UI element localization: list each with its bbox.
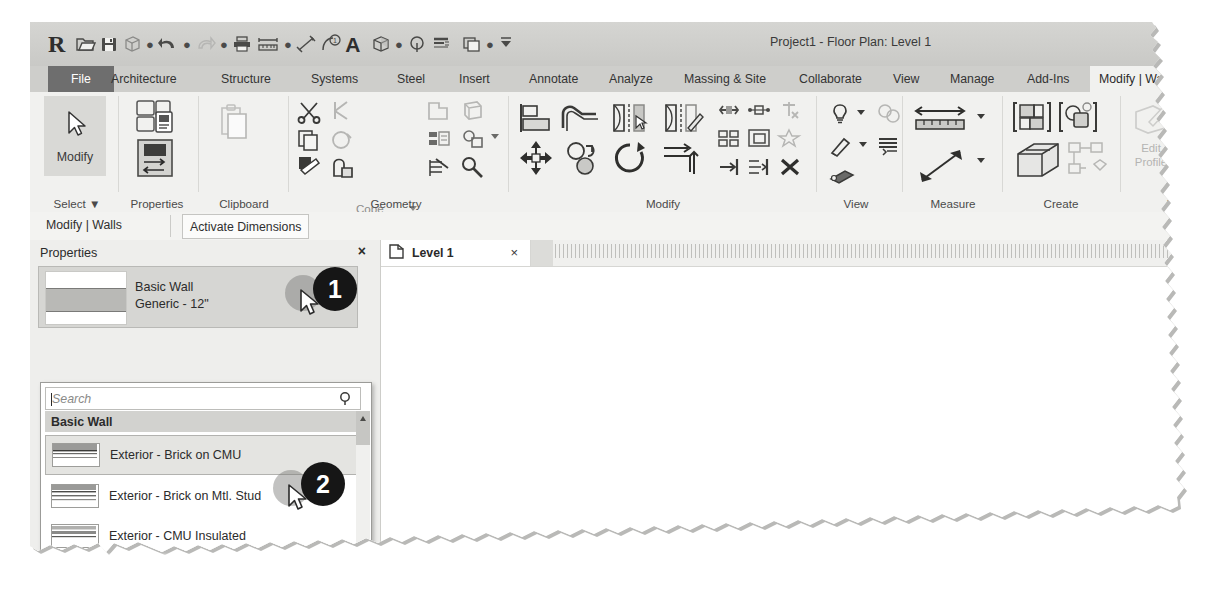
- tab-modify-walls[interactable]: Modify | Walls: [1090, 66, 1184, 92]
- view-tab-stub[interactable]: [531, 240, 553, 266]
- undo-icon[interactable]: [157, 34, 179, 54]
- save-icon[interactable]: [99, 34, 119, 54]
- switch-window-icon[interactable]: [461, 34, 483, 54]
- type-properties-icon[interactable]: [134, 138, 180, 178]
- measure-icon[interactable]: [256, 34, 280, 54]
- print-icon[interactable]: [231, 34, 253, 54]
- reveal-dropdown-arrow-icon[interactable]: [856, 108, 866, 116]
- unpin-icon[interactable]: [776, 100, 802, 120]
- tab-insert[interactable]: Insert: [450, 66, 499, 92]
- quick-access-toolbar[interactable]: R: [48, 28, 514, 60]
- reset-profile-button[interactable]: Reset Profile: [1176, 102, 1190, 168]
- tab-annotate[interactable]: Annotate: [520, 66, 587, 92]
- cut-profile-icon[interactable]: [876, 102, 902, 126]
- restore-icon[interactable]: [776, 128, 802, 148]
- offset-icon[interactable]: [560, 102, 602, 134]
- override-graphics-icon[interactable]: [876, 134, 902, 158]
- create-assembly-icon[interactable]: [1066, 140, 1112, 180]
- properties-close-icon[interactable]: ×: [358, 243, 366, 259]
- paste-icon[interactable]: [212, 102, 256, 144]
- reveal-hidden-icon[interactable]: [828, 102, 852, 126]
- type-dropdown-scrollbar[interactable]: [356, 411, 370, 552]
- linework-icon[interactable]: [828, 134, 854, 158]
- cope-icon[interactable]: [330, 100, 354, 122]
- edit-profile-button[interactable]: Edit Profile: [1126, 102, 1176, 168]
- scroll-up-arrow-icon[interactable]: [360, 416, 366, 421]
- scale-icon[interactable]: [746, 128, 772, 148]
- copy-modify-icon[interactable]: [564, 140, 602, 176]
- trim-extend-icon[interactable]: [660, 140, 700, 176]
- dropdown-dot-icon[interactable]: ●: [395, 38, 404, 51]
- linework-dropdown-arrow-icon[interactable]: [858, 140, 868, 148]
- hide-element-icon[interactable]: [828, 166, 856, 188]
- copy-icon[interactable]: [296, 128, 322, 152]
- screenshot-root: R: [0, 0, 1215, 600]
- section-icon[interactable]: [407, 34, 427, 54]
- properties-icon[interactable]: [134, 98, 180, 136]
- delete-icon[interactable]: [778, 156, 802, 178]
- aligned-dimension-icon[interactable]: [295, 34, 317, 54]
- match-type-icon[interactable]: [296, 154, 322, 178]
- cut-geometry-icon[interactable]: [330, 128, 354, 152]
- dropdown-dot-icon[interactable]: ●: [283, 38, 292, 51]
- open-icon[interactable]: [74, 34, 96, 54]
- create-similar-icon[interactable]: [1012, 100, 1052, 134]
- dropdown-dot-icon[interactable]: ●: [219, 38, 228, 51]
- measure-along-element-icon[interactable]: [916, 146, 970, 186]
- type-search-input[interactable]: Search: [45, 387, 361, 410]
- dropdown-dot-icon[interactable]: ●: [182, 38, 191, 51]
- paint-icon[interactable]: [460, 100, 486, 122]
- title-bar: R: [30, 22, 1190, 66]
- customize-qat-icon[interactable]: [498, 34, 514, 54]
- tab-collaborate[interactable]: Collaborate: [790, 66, 871, 92]
- join-geometry-icon[interactable]: [330, 156, 356, 180]
- tab-structure[interactable]: Structure: [212, 66, 280, 92]
- rotate-icon[interactable]: [610, 140, 650, 176]
- tab-manage[interactable]: Manage: [941, 66, 1003, 92]
- tag-icon[interactable]: 1: [320, 34, 342, 54]
- measure-between-references-icon[interactable]: [912, 104, 970, 138]
- tab-massing-site[interactable]: Massing & Site: [675, 66, 775, 92]
- mirror-draw-axis-icon[interactable]: [662, 102, 706, 134]
- attach-top-base-icon[interactable]: [716, 156, 742, 178]
- modify-button[interactable]: Modify: [44, 96, 106, 176]
- split-dropdown-arrow-icon[interactable]: [490, 132, 500, 140]
- demolish-icon[interactable]: [426, 156, 452, 180]
- pin-icon[interactable]: [716, 100, 742, 120]
- tab-add-ins[interactable]: Add-Ins: [1018, 66, 1078, 92]
- dropdown-dot-icon[interactable]: ●: [145, 38, 154, 51]
- search-icon[interactable]: [339, 391, 353, 410]
- wall-joins-icon[interactable]: [426, 128, 452, 150]
- redo-icon[interactable]: [194, 34, 216, 54]
- tab-systems[interactable]: Systems: [302, 66, 367, 92]
- default-3d-view-icon[interactable]: [370, 34, 392, 54]
- dropdown-dot-icon[interactable]: ●: [486, 38, 495, 51]
- move-icon[interactable]: [518, 140, 554, 176]
- cut-scissors-icon[interactable]: [296, 100, 322, 124]
- view-tab-level-1[interactable]: Level 1 ×: [380, 240, 531, 266]
- thin-lines-icon[interactable]: [430, 34, 452, 54]
- array-icon[interactable]: [746, 100, 772, 120]
- tab-analyze[interactable]: Analyze: [600, 66, 662, 92]
- view-tab-hatch-decoration: [555, 244, 1184, 258]
- demolish-hammer-icon[interactable]: [460, 156, 486, 180]
- text-icon[interactable]: A: [345, 34, 360, 55]
- create-part-icon[interactable]: [1012, 140, 1064, 180]
- save-as-icon[interactable]: [122, 34, 142, 54]
- detach-top-base-icon[interactable]: [746, 156, 772, 178]
- panel-label-select[interactable]: Select ▼: [44, 197, 110, 210]
- group-icon[interactable]: [716, 128, 742, 148]
- mirror-pick-axis-icon[interactable]: [610, 102, 654, 134]
- create-group-icon[interactable]: [1058, 100, 1098, 134]
- align-icon[interactable]: [518, 102, 554, 134]
- split-face-icon[interactable]: [426, 100, 452, 122]
- split-element-icon[interactable]: [460, 128, 488, 150]
- activate-dimensions-button[interactable]: Activate Dimensions: [182, 214, 309, 239]
- measure-along-dropdown-arrow-icon[interactable]: [976, 156, 986, 164]
- tab-architecture[interactable]: Architecture: [102, 66, 186, 92]
- ribbon-tab-strip[interactable]: File Architecture Structure Systems Stee…: [30, 66, 1190, 92]
- view-tab-close-icon[interactable]: ×: [510, 245, 518, 260]
- tab-view[interactable]: View: [884, 66, 928, 92]
- measure-dropdown-arrow-icon[interactable]: [976, 112, 986, 120]
- tab-steel[interactable]: Steel: [388, 66, 434, 92]
